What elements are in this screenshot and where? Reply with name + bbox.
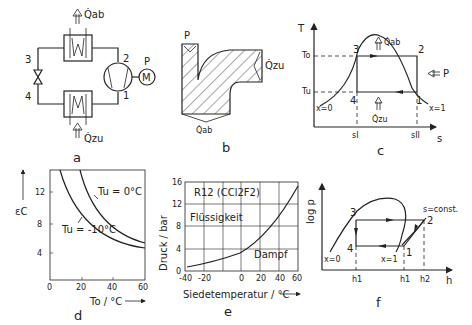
c-q-zu: Q̇zu xyxy=(372,114,388,124)
evaporator xyxy=(64,91,92,117)
d-curve2-label: Tu = -10°C xyxy=(61,224,116,235)
f-node-4: 4 xyxy=(347,243,353,254)
upper-pipe xyxy=(38,48,118,62)
e-xtick: 0 xyxy=(239,274,244,283)
power-label: P xyxy=(144,56,150,67)
e-xtick: -40 xyxy=(179,274,192,283)
panel-b-energy-flow: P Q̇zu Q̇ab b xyxy=(182,30,284,155)
condenser-coil xyxy=(70,28,86,58)
c-p: P xyxy=(443,68,449,79)
f-node-3: 3 xyxy=(350,207,356,218)
c-to-label: To xyxy=(301,51,311,60)
figure-canvas: Q̇ab Q̇zu M P 2 1 3 4 a P Q̇zu Q̇ab b xyxy=(0,0,472,325)
c-cycle xyxy=(357,56,417,92)
f-node-2: 2 xyxy=(427,215,433,226)
d-ytick: 12 xyxy=(35,188,45,197)
f-node-1: 1 xyxy=(406,247,412,258)
f-cycle xyxy=(356,220,424,246)
c-node-1: 1 xyxy=(416,95,422,106)
b-power-label: P xyxy=(184,30,190,41)
c-s1: sI xyxy=(352,131,359,140)
node-1: 1 xyxy=(123,90,129,101)
d-xtick: 20 xyxy=(76,283,86,292)
b-q-zu-label: Q̇zu xyxy=(265,59,284,71)
c-y-label: T xyxy=(297,23,305,34)
e-ytick: 12 xyxy=(172,200,182,209)
f-y-label: log p xyxy=(305,199,316,224)
q-zu-label: Q̇zu xyxy=(84,132,103,144)
f-x-label: h xyxy=(446,275,452,286)
e-y-label: Druck / bar xyxy=(158,214,169,271)
c-x1: x=1 xyxy=(429,104,446,113)
panel-d-cop-chart: 4 8 12 0 20 40 60 Tu = 0°C Tu = -10°C εC… xyxy=(15,170,148,323)
f-x1: x=1 xyxy=(381,255,398,264)
e-ytick: 4 xyxy=(176,245,181,254)
e-xtick: -20 xyxy=(198,274,211,283)
panel-f-logp-h-diagram: log p h 3 2 4 1 x=0 x=1 s=const. h1 h1 h… xyxy=(305,184,458,310)
c-node-3: 3 xyxy=(353,44,359,55)
c-node-2: 2 xyxy=(418,44,424,55)
q-ab-label: Q̇ab xyxy=(84,8,104,20)
d-xtick: 0 xyxy=(47,283,52,292)
c-tu-label: Tu xyxy=(301,87,311,96)
e-xtick: 20 xyxy=(256,274,266,283)
f-x0: x=0 xyxy=(324,255,341,264)
node-3: 3 xyxy=(25,54,31,65)
panel-a-circuit: Q̇ab Q̇zu M P 2 1 3 4 a xyxy=(25,8,155,165)
caption-a: a xyxy=(73,150,81,165)
c-x0: x=0 xyxy=(316,104,333,113)
caption-c: c xyxy=(377,143,384,158)
panel-c-ts-diagram: T s To Tu 3 2 4 1 x=0 x=1 Q̇ab Q̇zu P sI… xyxy=(297,23,449,158)
f-saturation-dome xyxy=(330,198,406,252)
energy-flow-shape xyxy=(182,44,262,114)
d-y-label: εC xyxy=(15,206,27,217)
q-ab-arrow xyxy=(73,9,82,24)
node-4: 4 xyxy=(25,91,31,102)
d-xtick: 60 xyxy=(138,283,148,292)
node-2: 2 xyxy=(123,53,129,64)
d-ytick: 8 xyxy=(37,220,42,229)
e-ytick: 8 xyxy=(176,222,181,231)
compressor-icon xyxy=(104,63,132,91)
c-q-ab: Q̇ab xyxy=(384,37,400,47)
q-zu-arrow xyxy=(73,123,82,138)
f-h1-a: h1 xyxy=(352,275,362,284)
caption-d: d xyxy=(74,308,82,323)
e-xtick: 40 xyxy=(275,274,285,283)
motor-label: M xyxy=(142,72,151,83)
e-vapor-label: Dampf xyxy=(254,249,288,260)
curve-tu-minus10 xyxy=(60,170,145,248)
c-s2: sII xyxy=(411,131,420,140)
f-s-const: s=const. xyxy=(423,205,458,214)
f-h1-b: h1 xyxy=(400,275,410,284)
lower-pipe xyxy=(38,48,118,104)
d-x-label: To / °C xyxy=(89,296,122,307)
d-curve1-label: Tu = 0°C xyxy=(97,186,142,197)
e-liquid-label: Flüssigkeit xyxy=(190,212,243,223)
caption-f: f xyxy=(376,295,381,310)
e-title: R12 (CCl2F2) xyxy=(194,187,260,198)
d-ytick: 4 xyxy=(37,249,42,258)
e-xtick: 60 xyxy=(292,274,302,283)
c-node-4: 4 xyxy=(350,95,356,106)
b-q-ab-label: Q̇ab xyxy=(196,125,212,135)
d-xtick: 40 xyxy=(107,283,117,292)
saturation-dome xyxy=(320,35,428,106)
c-x-label: s xyxy=(437,133,442,144)
condenser xyxy=(64,35,92,61)
e-x-label: Siedetemperatur / °C xyxy=(183,289,289,300)
f-h2: h2 xyxy=(420,275,430,284)
caption-b: b xyxy=(222,140,230,155)
evaporator-coil xyxy=(70,94,86,125)
panel-e-vapor-pressure-chart: 0 4 8 12 16 -40 -20 0 20 40 60 R12 (CCl2… xyxy=(158,178,302,319)
caption-e: e xyxy=(224,304,232,319)
e-ytick: 16 xyxy=(172,178,182,187)
expansion-valve-icon xyxy=(34,70,42,84)
